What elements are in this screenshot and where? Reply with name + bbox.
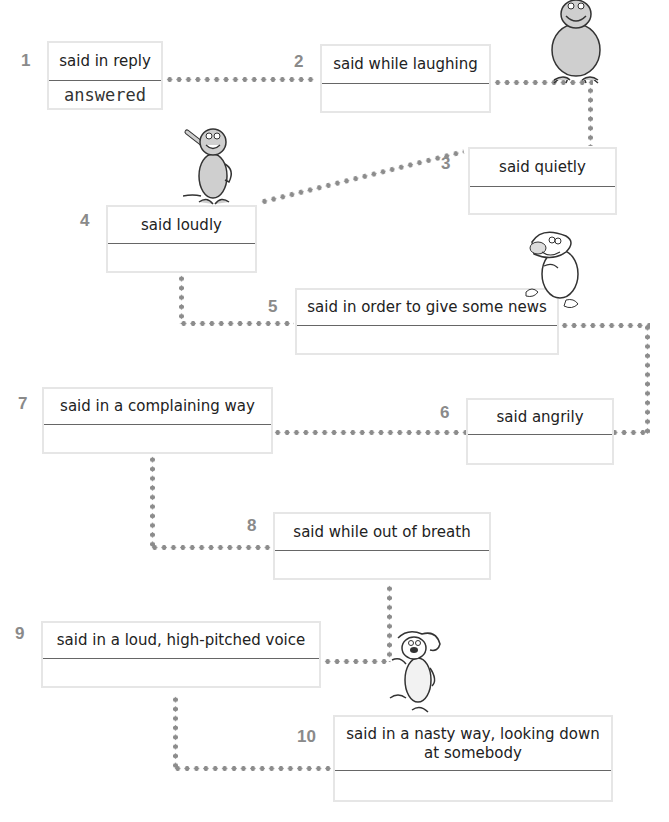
item-box-6: said angrily [466,398,614,465]
connector-7-8b [150,545,272,550]
prompt-text: said in reply [49,43,161,81]
connector-8-9b [323,659,391,664]
item-number-5: 5 [268,297,277,317]
item-box-1: said in reply answered [47,41,163,110]
connector-9-10b [173,766,333,771]
connector-3-4 [259,149,464,205]
item-number-10: 10 [297,727,316,747]
item-box-2: said while laughing [320,44,491,113]
answer-field[interactable]: answered [49,81,161,108]
item-box-10: said in a nasty way, looking down at som… [333,715,613,802]
answer-field[interactable] [297,326,557,353]
connector-5-6c [610,430,650,435]
dog-icon [388,628,444,714]
prompt-text: said quietly [470,149,615,187]
prompt-text: said in order to give some news [297,290,557,326]
connector-6-7 [273,430,466,435]
prompt-text: said angrily [468,400,612,435]
answer-field[interactable] [43,659,319,686]
connector-5-6a [560,323,650,328]
prompt-text: said in a loud, high-pitched voice [43,623,319,659]
item-number-9: 9 [15,624,24,644]
item-number-8: 8 [247,516,256,536]
answer-field[interactable] [470,187,615,213]
item-number-6: 6 [440,403,449,423]
answer-field[interactable] [335,771,611,800]
item-number-4: 4 [80,211,89,231]
item-box-4: said loudly [106,205,257,273]
item-number-7: 7 [18,394,27,414]
prompt-text: said while out of breath [275,514,489,551]
connector-1-2 [165,77,315,82]
answer-field[interactable] [322,84,489,111]
prompt-text: said in a nasty way, looking down at som… [335,717,611,771]
item-box-7: said in a complaining way [42,387,273,454]
answer-field[interactable] [108,244,255,271]
item-box-8: said while out of breath [273,512,491,580]
item-number-1: 1 [21,51,30,71]
connector-9-10a [173,695,178,769]
item-number-2: 2 [294,52,303,72]
answer-field[interactable] [468,435,612,463]
monkey-icon [183,124,243,209]
item-box-5: said in order to give some news [295,288,559,355]
answer-field[interactable] [44,425,271,452]
item-box-9: said in a loud, high-pitched voice [41,621,321,688]
connector-7-8a [150,455,155,547]
connector-5-6b [645,323,650,435]
prompt-text: said while laughing [322,46,489,84]
sheep-icon [522,222,584,312]
connector-4-5a [179,274,184,324]
connector-2-3b [588,86,593,146]
prompt-text: said in a complaining way [44,389,271,425]
gorilla-icon [540,0,612,84]
item-box-3: said quietly [468,147,617,215]
prompt-text: said loudly [108,207,255,244]
answer-field[interactable] [275,551,489,578]
connector-4-5b [179,321,294,326]
